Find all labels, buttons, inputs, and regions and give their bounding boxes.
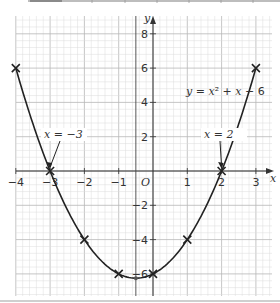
y-tick-label: 4 xyxy=(141,96,148,109)
y-axis-label: y xyxy=(143,12,151,25)
bottom-divider xyxy=(0,300,280,302)
y-tick-label: −4 xyxy=(132,234,148,247)
y-tick-label: 2 xyxy=(141,131,148,144)
equation-label: y = x² + x − 6 xyxy=(185,85,265,98)
y-tick-label: 8 xyxy=(141,28,148,41)
x-tick-label: −4 xyxy=(8,176,24,189)
parabola-graph: −4−3−2−11238642−2−4−6xyOy = x² + x − 6x … xyxy=(0,0,280,303)
table-bottom-border xyxy=(28,0,280,2)
y-tick-label: −2 xyxy=(132,199,148,212)
x-tick-label: 3 xyxy=(252,176,259,189)
origin-label: O xyxy=(141,176,150,189)
x-tick-label: −1 xyxy=(111,176,127,189)
annotation-root-left: x = −3 xyxy=(44,128,83,141)
annotation-root-right: x = 2 xyxy=(204,128,233,141)
vertex-point xyxy=(134,276,138,280)
y-tick-label: 6 xyxy=(141,62,148,75)
x-tick-label: −2 xyxy=(76,176,92,189)
x-tick-label: 1 xyxy=(184,176,191,189)
x-tick-label: −3 xyxy=(42,176,58,189)
table-header-cell xyxy=(30,0,62,2)
x-axis-label: x xyxy=(270,172,277,185)
